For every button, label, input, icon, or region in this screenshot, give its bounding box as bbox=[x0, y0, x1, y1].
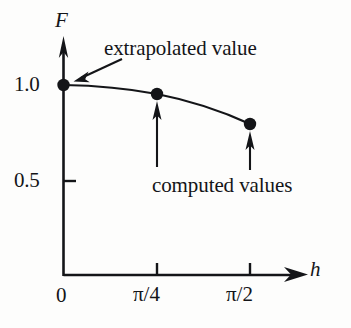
x-tick-label-pi-over-2: π/2 bbox=[226, 284, 253, 305]
annotation-extrapolated-value: extrapolated value bbox=[104, 38, 257, 59]
annotation-arrow-extrapolated bbox=[74, 59, 123, 82]
x-tick-label-0: 0 bbox=[56, 285, 66, 306]
x-tick-label-pi-over-4: π/4 bbox=[133, 284, 160, 305]
y-tick-label-1.0: 1.0 bbox=[14, 74, 40, 95]
annotation-arrow-extrapolated-head bbox=[74, 72, 90, 83]
y-axis bbox=[59, 36, 68, 276]
y-axis-label: F bbox=[55, 10, 68, 31]
annotation-arrow-computed-1 bbox=[153, 101, 162, 167]
x-axis bbox=[64, 267, 309, 282]
data-point-extrapolated bbox=[57, 79, 69, 91]
data-point-computed-2 bbox=[244, 118, 256, 130]
annotation-computed-values: computed values bbox=[152, 175, 292, 196]
x-axis-label: h bbox=[310, 259, 321, 280]
annotation-arrow-extrapolated-stem bbox=[81, 59, 122, 78]
figure-extrapolation-plot: F h 1.0 0.5 0 π/4 π/2 extrapolated value… bbox=[0, 0, 351, 328]
annotation-arrow-computed-2 bbox=[246, 131, 255, 170]
y-tick-label-0.5: 0.5 bbox=[14, 170, 40, 191]
data-point-computed-1 bbox=[151, 88, 163, 100]
